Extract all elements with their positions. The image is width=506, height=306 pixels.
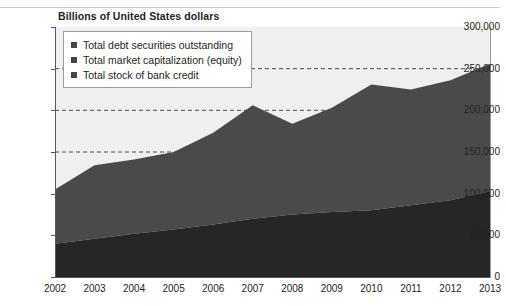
x-axis-tick-label: 2004 xyxy=(114,283,154,294)
y-axis-tick-label: 200,000 xyxy=(454,105,500,115)
legend-swatch-icon xyxy=(71,72,77,78)
legend: Total debt securities outstanding Total … xyxy=(63,31,252,88)
x-axis-tick-label: 2005 xyxy=(154,283,194,294)
x-axis-tick-label: 2009 xyxy=(312,283,352,294)
chart-title: Billions of United States dollars xyxy=(58,10,219,22)
legend-item: Total stock of bank credit xyxy=(71,67,242,82)
x-axis-tick-label: 2002 xyxy=(35,283,75,294)
x-axis-tick-label: 2011 xyxy=(391,283,431,294)
x-axis-tick-label: 2008 xyxy=(272,283,312,294)
y-axis-tick xyxy=(51,110,55,111)
y-axis-tick xyxy=(51,69,55,70)
x-axis-tick-label: 2003 xyxy=(75,283,115,294)
y-axis-tick xyxy=(51,194,55,195)
y-axis-tick-label: 250,000 xyxy=(454,64,500,74)
x-axis-line xyxy=(55,277,491,278)
y-axis-tick-label: 300,000 xyxy=(454,22,500,32)
legend-swatch-icon xyxy=(71,42,77,48)
legend-item: Total debt securities outstanding xyxy=(71,37,242,52)
y-axis-tick xyxy=(51,235,55,236)
y-axis-line xyxy=(55,27,56,278)
legend-item-label: Total stock of bank credit xyxy=(83,69,199,81)
legend-item-label: Total market capitalization (equity) xyxy=(83,54,242,66)
y-axis-tick-label: 50,000 xyxy=(454,230,500,240)
x-axis-tick-label: 2012 xyxy=(430,283,470,294)
legend-item-label: Total debt securities outstanding xyxy=(83,39,233,51)
y-axis-tick xyxy=(51,152,55,153)
x-axis-tick-label: 2007 xyxy=(233,283,273,294)
x-axis-tick-label: 2010 xyxy=(351,283,391,294)
legend-swatch-icon xyxy=(71,57,77,63)
y-axis-tick-label: 100,000 xyxy=(454,189,500,199)
legend-item: Total market capitalization (equity) xyxy=(71,52,242,67)
header-divider xyxy=(0,7,500,8)
y-axis-tick-label: 0 xyxy=(454,272,500,282)
x-axis-tick-label: 2006 xyxy=(193,283,233,294)
y-axis-tick xyxy=(51,27,55,28)
y-axis-tick-label: 150,000 xyxy=(454,147,500,157)
y-axis-tick xyxy=(51,277,55,278)
x-axis-tick-label: 2013 xyxy=(470,283,506,294)
